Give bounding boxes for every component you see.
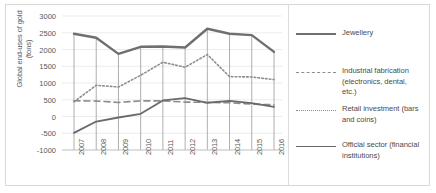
y-tick-label: 2000 bbox=[20, 45, 56, 54]
legend-label-official-line1: Official sector (financial bbox=[342, 140, 419, 149]
x-tick-label: 2016 bbox=[277, 139, 286, 155]
legend-label-industrial-fabrication: Industrial fabrication (electronics, den… bbox=[342, 66, 409, 98]
x-tick-label: 2007 bbox=[77, 139, 86, 155]
plot-area: 300025002000150010005000-500-1000 200720… bbox=[52, 12, 284, 187]
x-tick-label: 2009 bbox=[121, 139, 130, 155]
legend-label-official-line2: institutions) bbox=[342, 151, 380, 160]
y-tick-label: 0 bbox=[20, 112, 56, 121]
y-tick-label: 500 bbox=[20, 95, 56, 104]
legend-key-solid-thin-icon bbox=[296, 142, 336, 151]
legend-label-retail-line1: Retail investment (bars bbox=[342, 104, 419, 113]
legend-key-solid-icon bbox=[296, 30, 336, 39]
y-tick-label: 1000 bbox=[20, 79, 56, 88]
x-tick-label: 2010 bbox=[144, 139, 153, 155]
legend-label-retail-investment: Retail investment (bars and coins) bbox=[342, 104, 419, 125]
chart-figure: Global end-uses of gold (tons) 300025002… bbox=[0, 0, 436, 193]
legend-item-retail-investment[interactable]: Retail investment (bars and coins) bbox=[296, 104, 419, 125]
legend-label-jewellery: Jewellery bbox=[342, 28, 373, 39]
legend-item-official-sector[interactable]: Official sector (financial institutions) bbox=[296, 140, 419, 161]
x-tick-label: 2014 bbox=[233, 139, 242, 155]
legend-divider bbox=[288, 5, 289, 185]
x-tick-label: 2008 bbox=[99, 139, 108, 155]
x-tick-label: 2013 bbox=[210, 139, 219, 155]
legend-label-industrial-line3: etc.) bbox=[342, 87, 357, 96]
x-tick-label: 2012 bbox=[188, 139, 197, 155]
y-tick-label: 3000 bbox=[20, 12, 56, 21]
x-tick-label: 2015 bbox=[255, 139, 264, 155]
legend-label-retail-line2: and coins) bbox=[342, 115, 377, 124]
y-tick-label: 1500 bbox=[20, 62, 56, 71]
legend-item-jewellery[interactable]: Jewellery bbox=[296, 28, 373, 39]
y-tick-label: -1000 bbox=[20, 146, 56, 155]
y-tick-label: -500 bbox=[20, 129, 56, 138]
legend-key-dotted-icon bbox=[296, 106, 336, 115]
legend-key-dashed-icon bbox=[296, 68, 336, 77]
legend-label-industrial-line1: Industrial fabrication bbox=[342, 66, 409, 75]
legend-label-industrial-line2: (electronics, dental, bbox=[342, 77, 407, 86]
legend-item-industrial-fabrication[interactable]: Industrial fabrication (electronics, den… bbox=[296, 66, 409, 98]
x-tick-label: 2011 bbox=[166, 140, 175, 155]
legend-label-official-sector: Official sector (financial institutions) bbox=[342, 140, 419, 161]
y-tick-label: 2500 bbox=[20, 28, 56, 37]
series-line-2 bbox=[74, 55, 274, 102]
plot-canvas bbox=[52, 12, 284, 154]
